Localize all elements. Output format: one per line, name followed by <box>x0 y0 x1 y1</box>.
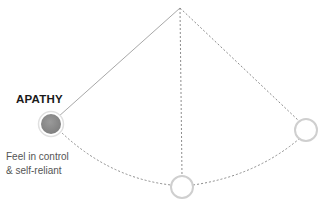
node-apathy-label: APATHY <box>16 93 63 105</box>
node-apathy-description: Feel in control & self-reliant <box>6 150 69 178</box>
description-line: Feel in control <box>6 150 69 164</box>
pendulum-string-right <box>180 8 299 121</box>
pendulum-string-bottom <box>180 8 182 176</box>
node-bottom <box>171 176 193 198</box>
description-line: & self-reliant <box>6 164 69 178</box>
swing-arc-left <box>62 133 171 185</box>
pendulum-string-active <box>58 8 180 117</box>
node-apathy <box>39 112 64 137</box>
node-right <box>295 119 317 141</box>
swing-arc-right <box>193 139 299 185</box>
